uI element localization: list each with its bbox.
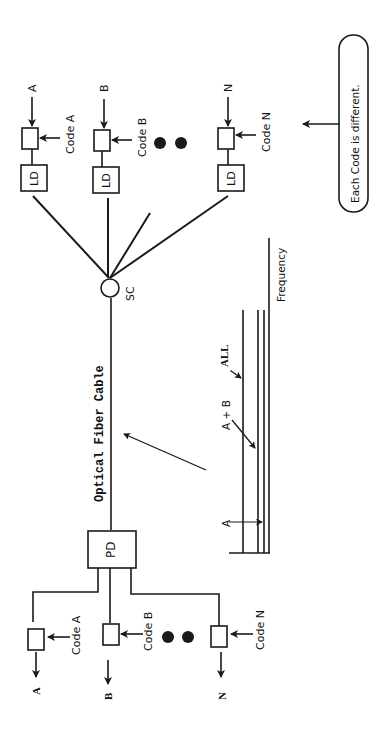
tx-input-label-b: B <box>98 84 111 92</box>
tx-input-label-n: N <box>222 84 235 92</box>
rx-code-label-b: Code B <box>142 612 155 651</box>
fan-in-lines <box>33 196 228 278</box>
tx-code-label-b: Code B <box>136 118 149 157</box>
star-coupler <box>101 279 119 297</box>
rx-output-label-a: A <box>30 687 42 695</box>
rx-code-label-n: Code N <box>254 610 267 650</box>
encoder-box-b <box>94 130 110 151</box>
ld-label-b: LD <box>100 173 113 188</box>
ellipsis-dots <box>154 137 194 643</box>
pd-label: PD <box>104 542 118 558</box>
spectrum-label-a-plus-b: A + B <box>220 400 232 430</box>
all-pointer-arrow <box>230 371 241 378</box>
encoder-box-a <box>22 128 38 149</box>
spectrum-pointer-arrow <box>124 434 206 470</box>
star-coupler-label: SC <box>124 286 137 301</box>
cdma-optical-diagram: A B N Code A Code B Code N LD LD LD SC P… <box>0 0 381 730</box>
ld-label-n: LD <box>225 171 238 186</box>
note-text: Each Code is different. <box>349 84 361 203</box>
frequency-axis-label: Frequency <box>275 248 287 302</box>
tx-input-label-a: A <box>26 84 39 92</box>
rx-output-label-n: N <box>216 692 228 700</box>
decoder-box-a <box>28 629 44 650</box>
spectrum-plot <box>229 238 270 553</box>
ld-label-a: LD <box>28 171 41 186</box>
decoder-box-n <box>211 626 227 647</box>
receiver-b <box>103 624 143 684</box>
spectrum-label-a: A <box>220 519 232 527</box>
receiver-branches <box>33 568 219 626</box>
spectrum-label-all: ALL <box>218 344 230 367</box>
receiver-a <box>28 629 70 677</box>
rx-code-label-a: Code A <box>70 615 83 655</box>
receiver-n <box>211 626 253 677</box>
encoder-box-n <box>218 128 234 149</box>
decoder-box-b <box>103 624 119 645</box>
tx-code-label-a: Code A <box>64 114 77 154</box>
rx-output-label-b: B <box>102 692 114 700</box>
tx-code-label-n: Code N <box>260 112 273 152</box>
fiber-label: Optical Fiber Cable <box>93 365 107 502</box>
